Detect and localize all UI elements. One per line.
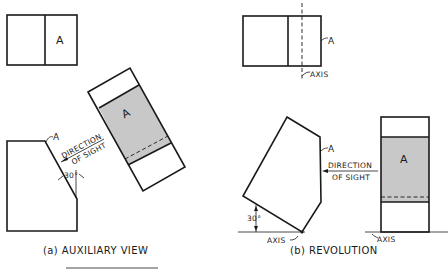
rev-top-view: A AXIS [243,3,335,81]
rev-side-axis-label: AXIS [377,235,395,244]
rev-revolved-leader [321,148,328,151]
rev-direction-text-2: OF SIGHT [332,173,370,182]
aux-angle-label: 30° [64,171,78,180]
aux-top-view-label: A [56,34,64,47]
aux-auxiliary-view: A [88,68,185,191]
auxiliary-view-figure: A A DIRECTION OF SIGHT 30° [7,15,185,268]
aux-front-leader [46,137,53,142]
rev-direction-of-sight: DIRECTION OF SIGHT [322,161,378,182]
aux-front-view-label: A [53,132,60,142]
aux-angle-tick-right [79,174,84,178]
rev-direction-text-1: DIRECTION [328,161,372,170]
rev-top-view-outline [243,16,321,66]
aux-caption: (a) AUXILIARY VIEW [43,245,148,256]
rev-caption: (b) REVOLUTION [290,245,378,256]
rev-axis-label: AXIS [267,236,285,245]
rev-side-shaded-face [381,137,429,202]
rev-side-view-label: A [400,153,408,166]
technical-drawing: A A DIRECTION OF SIGHT 30° [0,0,448,269]
rev-side-view: A AXIS [365,117,448,244]
aux-angle-tick-left [58,176,63,180]
aux-top-view: A [7,15,77,65]
rev-axis-leader [290,236,298,240]
rev-revolved-view: A 30° AXIS [238,117,335,245]
rev-axis-point-icon [301,231,304,234]
rev-angle-arrow-up-icon [254,206,258,211]
rev-angle-arrow-down-icon [254,226,258,231]
aux-front-view: A DIRECTION OF SIGHT 30° [7,132,108,231]
rev-top-view-label: A [328,36,335,46]
rev-top-axis-label: AXIS [310,70,328,79]
aux-shaded-face [99,85,171,165]
aux-top-view-outline [7,15,77,65]
rev-revolved-label: A [328,144,335,154]
rev-top-axis-leader [302,72,310,76]
rev-top-leader [321,38,328,41]
rev-angle-label: 30° [247,214,261,223]
revolution-figure: A AXIS A 30° AXIS DIRECTION OF SIGHT [238,3,448,256]
